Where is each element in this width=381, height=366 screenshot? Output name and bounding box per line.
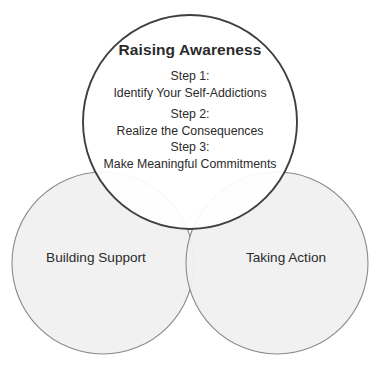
top-circle-title: Raising Awareness [119,41,262,58]
left-circle-label: Building Support [46,250,146,265]
step-1-label: Step 1: [171,69,210,83]
step-1-description: Identify Your Self-Addictions [113,86,266,100]
step-3-description: Make Meaningful Commitments [104,157,277,171]
venn-diagram-canvas: Raising Awareness Step 1: Identify Your … [0,0,381,366]
right-circle-label: Taking Action [246,250,326,265]
venn-diagram: Raising Awareness Step 1: Identify Your … [0,0,381,366]
step-2-description: Realize the Consequences [117,124,264,138]
step-3-label: Step 3: [171,140,210,154]
step-2-label: Step 2: [171,107,210,121]
